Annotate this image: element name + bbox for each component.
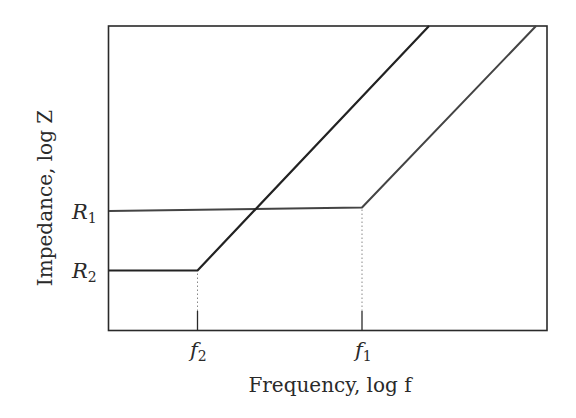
f1-label: f1 (353, 338, 372, 364)
impedance-frequency-chart: R1 R2 f2 f1 Frequency, log f Impedance, … (0, 0, 576, 418)
r2-label: R2 (71, 259, 97, 285)
series-r1-line (109, 26, 536, 211)
plot-frame (109, 26, 548, 331)
y-axis-title: Impedance, log Z (33, 110, 57, 286)
series-r2-line (109, 26, 429, 271)
f2-label: f2 (188, 338, 207, 364)
r1-label: R1 (71, 200, 97, 226)
x-axis-title: Frequency, log f (248, 373, 413, 397)
